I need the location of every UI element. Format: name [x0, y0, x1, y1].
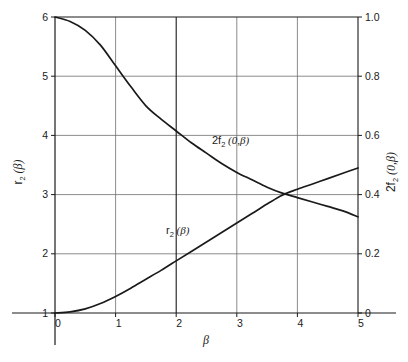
ticklabels-x: 012345: [55, 317, 364, 329]
ticklabel-left: 2: [42, 247, 48, 259]
curve-2f2: [55, 17, 358, 217]
ticklabels-right: 1.00.80.60.40.20: [365, 11, 380, 319]
ticklabel-left: 1: [42, 307, 48, 319]
ticklabel-x: 1: [116, 317, 122, 329]
ticklabel-right: 1.0: [365, 11, 380, 23]
chart-svg: 654321 1.00.80.60.40.20 012345 β r2 (β) …: [0, 0, 408, 362]
ticklabels-left: 654321: [42, 11, 48, 319]
svg-text:r2 (β): r2 (β): [11, 159, 27, 184]
svg-text:2f2 (0,β): 2f2 (0,β): [384, 152, 400, 192]
ticklabel-right: 0: [365, 307, 371, 319]
curve-label-2f2: 2f2 (0,β): [212, 134, 250, 149]
plot-frame: [12, 17, 396, 345]
y-axis-left-title: r2 (β): [11, 159, 27, 184]
y-axis-right-title: 2f2 (0,β): [384, 152, 400, 192]
ticklabel-right: 0.4: [365, 188, 380, 200]
ticklabel-right: 0.6: [365, 129, 380, 141]
curve-r2: [55, 168, 358, 313]
ticklabel-right: 0.8: [365, 70, 380, 82]
ticklabel-x: 2: [176, 317, 182, 329]
ticklabel-x: 3: [237, 317, 243, 329]
ticklabel-right: 0.2: [365, 247, 380, 259]
ticklabel-left: 5: [42, 70, 48, 82]
ticklabel-x: 5: [358, 317, 364, 329]
curve-label-r2: r2 (β): [166, 224, 190, 239]
ticklabel-x: 4: [297, 317, 303, 329]
x-axis-title: β: [202, 333, 209, 347]
figure-container: 654321 1.00.80.60.40.20 012345 β r2 (β) …: [0, 0, 408, 362]
grid-horizontal: [55, 76, 358, 254]
tickmarks-right: [358, 17, 362, 313]
grid-vertical: [116, 17, 298, 313]
ticklabel-left: 3: [42, 188, 48, 200]
ticklabel-left: 4: [42, 129, 48, 141]
ticklabel-x: 0: [55, 317, 61, 329]
ticklabel-left: 6: [42, 11, 48, 23]
